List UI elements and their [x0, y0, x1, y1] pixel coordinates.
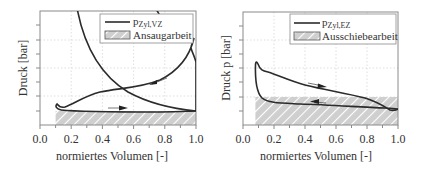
svg-text:0.0: 0.0 [33, 132, 48, 146]
svg-text:1.0: 1.0 [391, 132, 406, 146]
left-chart: pZyl,VZ Ansaugarbeit 0.0 0.2 0.4 0.6 0.8… [16, 8, 204, 163]
right-chart: pZyl,EZ Ausschiebearbeit 0.0 0.2 0.4 0.6… [219, 12, 406, 163]
svg-text:0.4: 0.4 [95, 132, 110, 146]
svg-text:1.0: 1.0 [189, 132, 204, 146]
left-arrow-compression [149, 78, 167, 85]
left-x-tick-labels: 0.0 0.2 0.4 0.6 0.8 1.0 [33, 132, 204, 146]
svg-text:0.2: 0.2 [267, 132, 282, 146]
svg-text:0.2: 0.2 [64, 132, 79, 146]
left-legend: pZyl,VZ Ansaugarbeit [100, 14, 193, 43]
left-legend-area-label: Ansaugarbeit [133, 29, 192, 41]
left-compression-curve [56, 38, 196, 111]
right-legend: pZyl,EZ Ausschiebearbeit [290, 14, 398, 44]
right-y-axis-label: Druck p [bar] [219, 35, 233, 100]
legend-hatch-swatch [105, 31, 130, 39]
svg-text:0.6: 0.6 [126, 132, 141, 146]
svg-text:0.8: 0.8 [157, 132, 172, 146]
left-y-axis-label: Druck [bar] [16, 40, 30, 96]
left-ansaugarbeit-area [56, 111, 196, 125]
svg-text:0.0: 0.0 [236, 132, 251, 146]
svg-text:0.6: 0.6 [329, 132, 344, 146]
legend-hatch-swatch [294, 32, 320, 40]
right-ausschiebearbeit-area [255, 97, 398, 125]
figure: pZyl,VZ Ansaugarbeit 0.0 0.2 0.4 0.6 0.8… [0, 0, 421, 175]
svg-text:0.8: 0.8 [360, 132, 375, 146]
right-legend-area-label: Ausschiebearbeit [322, 30, 398, 42]
svg-text:0.4: 0.4 [298, 132, 313, 146]
left-arrow-intake [108, 106, 128, 111]
right-x-axis-label: normiertes Volumen [-] [260, 149, 372, 163]
right-x-tick-labels: 0.0 0.2 0.4 0.6 0.8 1.0 [236, 132, 406, 146]
left-x-axis-label: normiertes Volumen [-] [56, 149, 168, 163]
